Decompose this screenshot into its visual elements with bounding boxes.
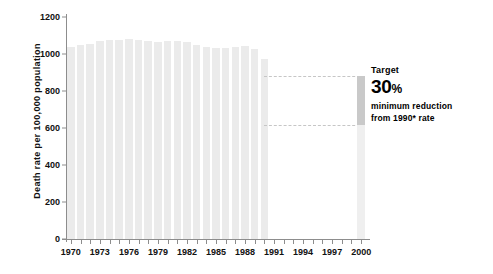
x-axis-tick-mark — [235, 239, 236, 244]
baseline-1990-rate-line — [264, 76, 365, 77]
bar — [144, 41, 152, 239]
target-annotation-value: 30% — [371, 76, 489, 100]
x-axis-tick-mark — [71, 239, 72, 244]
y-axis-tick-label: 200 — [45, 197, 60, 207]
x-axis-tick-label: 1997 — [322, 247, 342, 257]
bar — [135, 40, 143, 239]
x-axis-tick-mark — [187, 239, 188, 244]
bar — [203, 47, 211, 239]
x-axis-tick-label: 2000 — [351, 247, 371, 257]
x-axis-tick-mark — [313, 239, 314, 244]
bar — [67, 47, 75, 239]
target-percent-number: 30 — [371, 76, 392, 97]
x-axis-tick-label: 1973 — [90, 247, 110, 257]
y-axis-tick-label: 800 — [45, 86, 60, 96]
target-annotation-line1: minimum reduction — [371, 100, 489, 112]
x-axis-tick-mark — [90, 239, 91, 244]
x-axis-tick-mark — [110, 239, 111, 244]
bar — [251, 49, 259, 239]
x-axis-tick-mark — [264, 239, 265, 244]
x-axis-tick-mark — [255, 239, 256, 244]
x-axis-tick-label: 1970 — [61, 247, 81, 257]
x-axis-tick-mark — [245, 239, 246, 244]
x-axis-tick-mark — [303, 239, 304, 244]
x-axis-tick-mark — [168, 239, 169, 244]
bar — [174, 41, 182, 239]
x-axis-tick-label: 1976 — [119, 247, 139, 257]
bar — [232, 47, 240, 239]
y-axis-tick-label: 1000 — [40, 49, 60, 59]
x-axis-tick-mark — [293, 239, 294, 244]
x-axis-tick-mark — [129, 239, 130, 244]
x-axis-tick-mark — [332, 239, 333, 244]
bar — [261, 59, 269, 239]
percent-sign: % — [392, 82, 402, 96]
bar — [212, 48, 220, 239]
y-axis-title: Death rate per 100,000 population — [32, 16, 42, 226]
x-axis-tick-mark — [284, 239, 285, 244]
bar — [77, 45, 85, 239]
bar — [106, 40, 114, 239]
x-axis-tick-label: 1985 — [206, 247, 226, 257]
y-axis-tick-label: 0 — [55, 234, 60, 244]
target-2000-rate-line — [264, 125, 365, 126]
bar — [86, 44, 94, 239]
x-axis-tick-mark — [177, 239, 178, 244]
x-axis-tick-label: 1994 — [293, 247, 313, 257]
x-axis-tick-label: 1982 — [177, 247, 197, 257]
target-annotation-title: Target — [371, 64, 489, 76]
x-axis-tick-label: 1979 — [148, 247, 168, 257]
y-axis-tick-label: 400 — [45, 160, 60, 170]
x-axis-tick-mark — [226, 239, 227, 244]
x-axis-tick-mark — [216, 239, 217, 244]
plot-area — [66, 17, 366, 239]
target-annotation: Target 30% minimum reduction from 1990* … — [371, 64, 489, 124]
bar — [96, 41, 104, 239]
y-axis-tick-label: 600 — [45, 123, 60, 133]
x-axis-tick-mark — [351, 239, 352, 244]
x-axis-tick-mark — [206, 239, 207, 244]
bar — [164, 41, 172, 239]
x-axis-tick-mark — [119, 239, 120, 244]
bar — [115, 40, 123, 239]
target-bar-body — [357, 125, 365, 239]
x-axis-tick-mark — [148, 239, 149, 244]
x-axis-tick-mark — [322, 239, 323, 244]
x-axis-tick-label: 1988 — [235, 247, 255, 257]
x-axis-tick-mark — [81, 239, 82, 244]
bar — [125, 39, 133, 239]
bar — [154, 42, 162, 239]
x-axis-tick-mark — [100, 239, 101, 244]
x-axis-tick-mark — [274, 239, 275, 244]
target-reduction-band — [357, 76, 365, 125]
y-axis-tick-label: 1200 — [40, 12, 60, 22]
bar — [241, 46, 249, 239]
x-axis-tick-mark — [361, 239, 362, 244]
bar — [193, 45, 201, 239]
x-axis-tick-mark — [197, 239, 198, 244]
bar — [183, 42, 191, 239]
target-annotation-line2: from 1990* rate — [371, 112, 489, 124]
x-axis-tick-mark — [342, 239, 343, 244]
bar — [222, 48, 230, 239]
x-axis-tick-mark — [158, 239, 159, 244]
x-axis-tick-mark — [139, 239, 140, 244]
chart-container: Death rate per 100,000 population 020040… — [0, 0, 493, 274]
x-axis-tick-label: 1991 — [264, 247, 284, 257]
